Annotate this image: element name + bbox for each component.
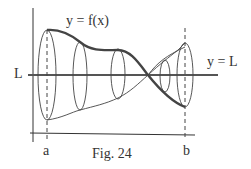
- function-label: y = f(x): [66, 14, 109, 28]
- mirror-curve: [47, 43, 185, 120]
- axis-line-label: L: [14, 67, 23, 81]
- figure-drawing: [0, 0, 251, 169]
- x-axis: [30, 133, 195, 135]
- x-start-label: a: [43, 144, 49, 158]
- line-label: y = L: [207, 55, 237, 69]
- figure-caption: Fig. 24: [92, 147, 132, 161]
- solid-of-revolution-figure: y = f(x) y = L L a b Fig. 24: [0, 0, 251, 169]
- function-curve: [47, 30, 185, 107]
- x-end-label: b: [183, 144, 190, 158]
